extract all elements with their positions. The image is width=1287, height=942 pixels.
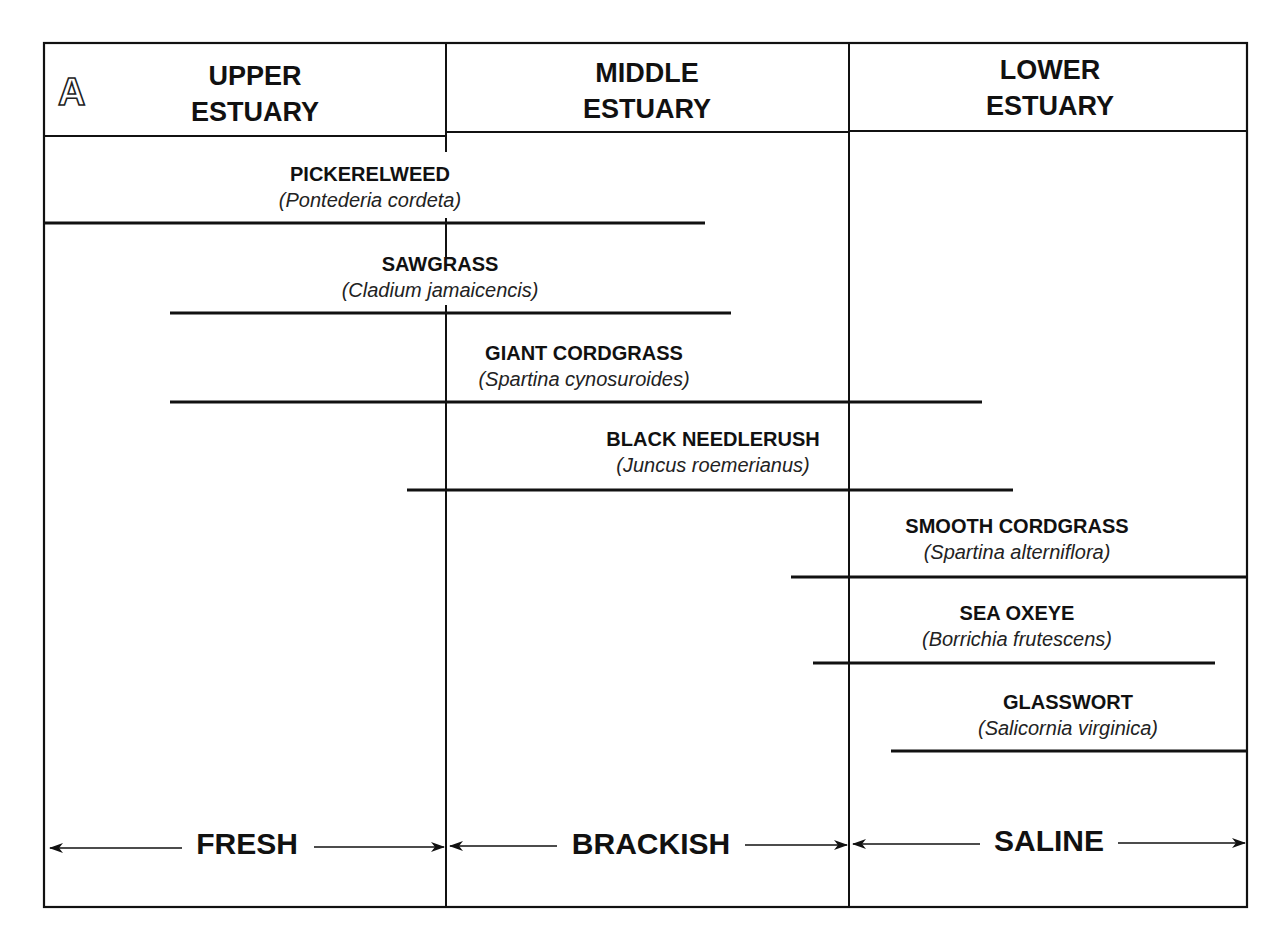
species-pickerelweed: PICKERELWEED (Pontederia cordeta) bbox=[220, 161, 520, 213]
species-common-name: SAWGRASS bbox=[290, 251, 590, 277]
species-scientific-name: (Spartina cynosuroides) bbox=[434, 366, 734, 392]
header-lower-estuary: LOWER ESTUARY bbox=[915, 52, 1185, 124]
species-common-name: GLASSWORT bbox=[918, 689, 1218, 715]
species-scientific-name: (Cladium jamaicencis) bbox=[290, 277, 590, 303]
species-common-name: PICKERELWEED bbox=[220, 161, 520, 187]
species-scientific-name: (Juncus roemerianus) bbox=[563, 452, 863, 478]
zone-saline: SALINE bbox=[982, 823, 1116, 859]
header-line2: ESTUARY bbox=[120, 94, 390, 130]
header-upper-estuary: UPPER ESTUARY bbox=[120, 58, 390, 130]
species-sea-oxeye: SEA OXEYE (Borrichia frutescens) bbox=[867, 600, 1167, 652]
species-black-needlerush: BLACK NEEDLERUSH (Juncus roemerianus) bbox=[563, 426, 863, 478]
header-line2: ESTUARY bbox=[512, 91, 782, 127]
zone-brackish: BRACKISH bbox=[560, 826, 742, 862]
panel-label: A bbox=[58, 72, 85, 112]
species-giant-cordgrass: GIANT CORDGRASS (Spartina cynosuroides) bbox=[434, 340, 734, 392]
species-range-lines bbox=[43, 223, 1247, 751]
species-smooth-cordgrass: SMOOTH CORDGRASS (Spartina alterniflora) bbox=[867, 513, 1167, 565]
header-line1: UPPER bbox=[120, 58, 390, 94]
species-sawgrass: SAWGRASS (Cladium jamaicencis) bbox=[290, 251, 590, 303]
zone-fresh: FRESH bbox=[184, 826, 310, 862]
species-common-name: GIANT CORDGRASS bbox=[434, 340, 734, 366]
header-middle-estuary: MIDDLE ESTUARY bbox=[512, 55, 782, 127]
species-glasswort: GLASSWORT (Salicornia virginica) bbox=[918, 689, 1218, 741]
header-line2: ESTUARY bbox=[915, 88, 1185, 124]
species-scientific-name: (Spartina alterniflora) bbox=[867, 539, 1167, 565]
species-scientific-name: (Salicornia virginica) bbox=[918, 715, 1218, 741]
species-common-name: SEA OXEYE bbox=[867, 600, 1167, 626]
species-scientific-name: (Pontederia cordeta) bbox=[220, 187, 520, 213]
species-common-name: SMOOTH CORDGRASS bbox=[867, 513, 1167, 539]
species-scientific-name: (Borrichia frutescens) bbox=[867, 626, 1167, 652]
header-line1: MIDDLE bbox=[512, 55, 782, 91]
species-common-name: BLACK NEEDLERUSH bbox=[563, 426, 863, 452]
header-line1: LOWER bbox=[915, 52, 1185, 88]
